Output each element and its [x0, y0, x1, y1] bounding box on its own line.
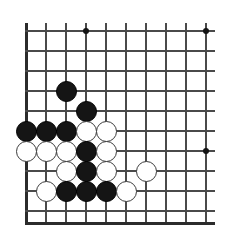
grid-line-vertical [185, 23, 187, 222]
black-stone[interactable] [56, 121, 77, 142]
white-stone[interactable] [136, 161, 157, 182]
go-board[interactable] [0, 0, 234, 239]
white-stone[interactable] [96, 161, 117, 182]
white-stone[interactable] [56, 161, 77, 182]
black-stone[interactable] [76, 101, 97, 122]
black-stone[interactable] [16, 121, 37, 142]
white-stone[interactable] [116, 181, 137, 202]
grid-line-horizontal [25, 110, 216, 112]
black-stone[interactable] [76, 161, 97, 182]
black-stone[interactable] [56, 81, 77, 102]
board-edge-bottom [25, 222, 216, 225]
grid-line-horizontal [25, 70, 216, 72]
black-stone[interactable] [96, 181, 117, 202]
grid-line-horizontal [25, 90, 216, 92]
white-stone[interactable] [76, 121, 97, 142]
grid-line-horizontal [25, 170, 216, 172]
black-stone[interactable] [76, 141, 97, 162]
white-stone[interactable] [36, 181, 57, 202]
grid-line-vertical [165, 23, 167, 222]
grid-line-vertical [145, 23, 147, 222]
white-stone[interactable] [16, 141, 37, 162]
white-stone[interactable] [36, 141, 57, 162]
white-stone[interactable] [56, 141, 77, 162]
star-point [203, 148, 209, 154]
grid-line-horizontal [25, 50, 216, 52]
white-stone[interactable] [96, 141, 117, 162]
star-point [83, 28, 89, 34]
white-stone[interactable] [96, 121, 117, 142]
black-stone[interactable] [56, 181, 77, 202]
star-point [203, 28, 209, 34]
grid-line-vertical [205, 23, 207, 222]
black-stone[interactable] [76, 181, 97, 202]
go-board-figure [0, 0, 234, 239]
grid-line-horizontal [25, 30, 216, 32]
black-stone[interactable] [36, 121, 57, 142]
grid-line-horizontal [25, 210, 216, 212]
